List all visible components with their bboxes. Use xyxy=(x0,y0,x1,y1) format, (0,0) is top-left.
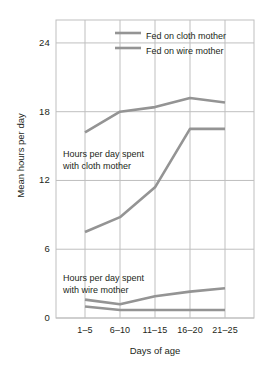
y-tick-label: 24 xyxy=(28,37,50,48)
y-tick-label: 0 xyxy=(28,312,50,323)
x-axis-label: Days of age xyxy=(56,345,254,356)
legend-swatches xyxy=(115,33,141,48)
annotation-wire-line2: with wire mother xyxy=(63,284,129,296)
y-tick-label: 18 xyxy=(28,106,50,117)
legend-label-wire: Fed on wire mother xyxy=(146,46,224,56)
x-tick-label: 21–25 xyxy=(203,325,247,335)
chart-figure: 0 6 12 18 24 1–5 6–10 11–15 16–20 21–25 … xyxy=(0,0,266,365)
annotation-wire-line1: Hours per day spent xyxy=(63,272,144,284)
y-axis-label: Mean hours per day xyxy=(15,91,26,221)
y-tick-label: 6 xyxy=(28,243,50,254)
annotation-cloth-line1: Hours per day spent xyxy=(63,148,144,160)
legend-label-cloth: Fed on cloth mother xyxy=(146,31,226,41)
annotation-cloth-line2: with cloth mother xyxy=(63,160,131,172)
y-tick-label: 12 xyxy=(28,174,50,185)
